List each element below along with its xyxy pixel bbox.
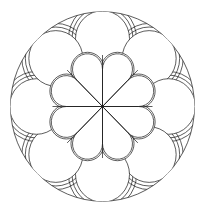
rosette-figure — [0, 0, 203, 208]
rosette-drawing — [0, 0, 203, 208]
radial-lines — [53, 55, 153, 158]
